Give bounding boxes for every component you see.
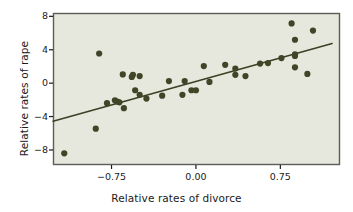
data-point (96, 50, 102, 56)
data-point (143, 96, 149, 102)
y-tick-label: 8 (14, 10, 48, 21)
data-point (182, 78, 188, 84)
data-point (206, 79, 212, 85)
data-point (159, 93, 165, 99)
data-point (222, 62, 228, 68)
data-point (292, 37, 298, 43)
data-point (137, 92, 143, 98)
data-point (292, 64, 298, 70)
data-point (232, 65, 238, 71)
data-point (61, 150, 67, 156)
data-point (132, 87, 138, 93)
x-tick-label: 0.75 (250, 171, 310, 182)
data-point (179, 92, 185, 98)
data-point (278, 55, 284, 61)
data-point (310, 27, 316, 33)
data-point (242, 73, 248, 79)
data-point (232, 72, 238, 78)
data-point (201, 63, 207, 69)
data-point (104, 100, 110, 106)
y-tick-label: −4 (14, 111, 48, 122)
data-point (137, 73, 143, 79)
data-point (121, 105, 127, 111)
y-tick-label: 4 (14, 44, 48, 55)
data-point (120, 71, 126, 77)
x-axis-label: Relative rates of divorce (0, 192, 353, 204)
data-point (166, 78, 172, 84)
y-tick-label: −8 (14, 144, 48, 155)
data-point (304, 71, 310, 77)
x-tick-label: −0.75 (82, 171, 142, 182)
y-tick-label: 0 (14, 77, 48, 88)
data-point (193, 87, 199, 93)
data-point (116, 99, 122, 105)
x-tick-label: 0.00 (166, 171, 226, 182)
data-point (93, 126, 99, 132)
data-point (265, 60, 271, 66)
data-point (130, 72, 136, 78)
data-point (292, 53, 298, 59)
y-axis-label: Relative rates of rape (18, 41, 30, 156)
y-axis-label-wrapper: Relative rates of rape (13, 14, 32, 184)
data-point (289, 20, 295, 26)
data-point (257, 60, 263, 66)
scatter-plot-figure: Relative rates of rape Relative rates of… (0, 0, 353, 212)
